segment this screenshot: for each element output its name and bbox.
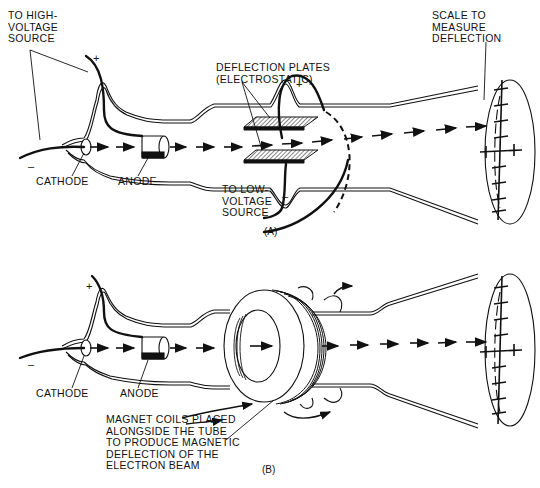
label-cathode-b: CATHODE <box>36 388 89 400</box>
minus-sign-hv: – <box>28 160 34 172</box>
label-magnet-coils: MAGNET COILS PLACED ALONGSIDE THE TUBE T… <box>106 414 240 472</box>
plus-sign-b: + <box>86 280 92 292</box>
label-anode-a: ANODE <box>118 176 157 188</box>
label-scale-to-measure: SCALE TO MEASURE DEFLECTION <box>432 10 502 45</box>
magnet-coil <box>224 287 342 409</box>
deflection-plates <box>244 117 318 163</box>
minus-sign-b: – <box>28 358 34 370</box>
scale-a <box>480 80 522 220</box>
label-anode-b: ANODE <box>120 388 159 400</box>
caption-b: (B) <box>262 464 275 475</box>
plus-sign-plate: + <box>296 78 302 90</box>
scale-b <box>480 276 522 424</box>
caption-a: (A) <box>264 226 277 237</box>
label-cathode-a: CATHODE <box>36 176 89 188</box>
label-low-voltage-source: TO LOW- VOLTAGE SOURCE <box>222 184 272 219</box>
minus-sign-plate: – <box>282 190 288 202</box>
label-high-voltage-source: TO HIGH- VOLTAGE SOURCE <box>8 10 58 45</box>
plus-sign-hv: + <box>93 52 99 64</box>
label-deflection-plates: DEFLECTION PLATES (ELECTROSTATIC) <box>216 62 330 85</box>
